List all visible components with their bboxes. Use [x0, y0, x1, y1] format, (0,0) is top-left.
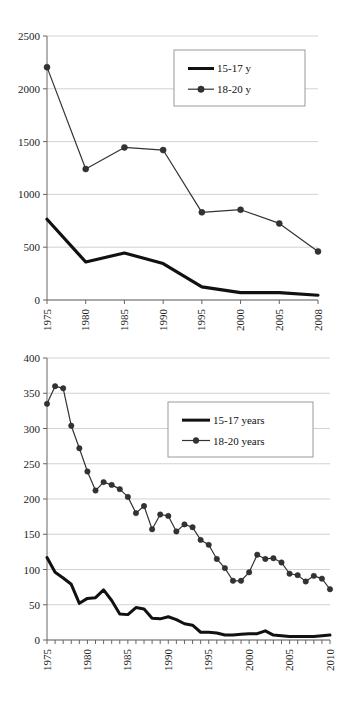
svg-text:1995: 1995 [202, 649, 214, 672]
chart-panel-top: 0500100015002000250019751980198519901995… [0, 0, 349, 350]
x-axis-tick-label: 1975 [41, 309, 53, 332]
x-axis-tick-label: 2005 [273, 309, 285, 332]
svg-text:1975: 1975 [41, 649, 53, 672]
series-marker [238, 578, 243, 583]
svg-text:2005: 2005 [273, 309, 285, 332]
x-axis-tick-label: 1990 [162, 649, 174, 672]
series-marker [174, 529, 179, 534]
series-marker [117, 486, 122, 491]
x-axis-tick-label: 1975 [41, 649, 53, 672]
x-axis-tick-label: 1980 [79, 309, 91, 332]
series-marker [101, 479, 106, 484]
line-chart-top: 0500100015002000250019751980198519901995… [0, 0, 349, 350]
x-axis-tick-label: 1990 [157, 309, 169, 332]
series-marker [44, 64, 50, 70]
x-axis-tick-label: 1985 [118, 309, 130, 332]
series-marker [93, 488, 98, 493]
series-marker [271, 556, 276, 561]
y-axis-tick-label: 1000 [18, 188, 41, 200]
svg-text:1980: 1980 [79, 309, 91, 332]
x-axis-tick-label: 1995 [195, 309, 207, 332]
y-axis-tick-label: 350 [24, 387, 41, 399]
series-marker [121, 144, 127, 150]
series-marker [85, 469, 90, 474]
series-marker [311, 573, 316, 578]
series-marker [327, 587, 332, 592]
y-axis-tick-label: 2000 [18, 83, 41, 95]
svg-text:2008: 2008 [312, 309, 324, 332]
svg-text:1975: 1975 [41, 309, 53, 332]
y-axis-tick-label: 1500 [18, 136, 41, 148]
series-marker [246, 570, 251, 575]
series-marker [69, 423, 74, 428]
svg-text:1995: 1995 [195, 309, 207, 332]
legend-label: 15-17 years [213, 414, 265, 426]
series-marker [222, 565, 227, 570]
series-marker [166, 513, 171, 518]
x-axis-tick-label: 2000 [243, 649, 255, 672]
line-chart-bottom: 0501001502002503003504001975198019851990… [0, 350, 349, 701]
legend-swatch-marker [193, 438, 199, 444]
svg-text:2000: 2000 [243, 649, 255, 672]
x-axis-tick-label: 1995 [202, 649, 214, 672]
series-marker [190, 525, 195, 530]
series-marker [109, 482, 114, 487]
svg-text:2010: 2010 [324, 649, 336, 672]
series-marker [199, 209, 205, 215]
svg-text:1985: 1985 [118, 309, 130, 332]
series-marker [206, 542, 211, 547]
legend-box [168, 402, 313, 457]
series-marker [230, 578, 235, 583]
series-marker [319, 576, 324, 581]
svg-text:1985: 1985 [121, 649, 133, 672]
series-marker [182, 522, 187, 527]
x-axis-tick-label: 2000 [234, 309, 246, 332]
series-marker [133, 510, 138, 515]
series-marker [141, 503, 146, 508]
series-marker [276, 220, 282, 226]
svg-text:2000: 2000 [234, 309, 246, 332]
x-axis-tick-label: 2008 [312, 309, 324, 332]
y-axis-tick-label: 200 [24, 493, 41, 505]
legend-label: 18-20 years [213, 435, 265, 447]
y-axis-tick-label: 100 [24, 564, 41, 576]
svg-text:1980: 1980 [81, 649, 93, 672]
series-marker [255, 552, 260, 557]
y-axis-tick-label: 400 [24, 352, 41, 364]
series-marker [77, 446, 82, 451]
svg-text:2005: 2005 [283, 649, 295, 672]
series-marker [315, 248, 321, 254]
series-marker [52, 384, 57, 389]
series-line [47, 219, 318, 295]
series-marker [83, 166, 89, 172]
series-marker [125, 494, 130, 499]
y-axis-tick-label: 150 [24, 528, 41, 540]
legend-label: 18-20 y [217, 83, 251, 95]
series-marker [238, 207, 244, 213]
series-marker [279, 560, 284, 565]
y-axis-tick-label: 50 [29, 599, 41, 611]
series-marker [214, 556, 219, 561]
x-axis-tick-label: 2010 [324, 649, 336, 672]
y-axis-tick-label: 300 [24, 423, 41, 435]
series-marker [263, 556, 268, 561]
y-axis-tick-label: 500 [24, 241, 41, 253]
chart-panel-bottom: 0501001502002503003504001975198019851990… [0, 350, 349, 701]
series-marker [149, 527, 154, 532]
series-marker [287, 571, 292, 576]
series-marker [44, 401, 49, 406]
x-axis-tick-label: 2005 [283, 649, 295, 672]
svg-text:1990: 1990 [162, 649, 174, 672]
legend-box [174, 50, 305, 106]
y-axis-tick-label: 2500 [18, 30, 41, 42]
y-axis-tick-label: 0 [35, 294, 41, 306]
svg-text:1990: 1990 [157, 309, 169, 332]
series-marker [60, 386, 65, 391]
x-axis-tick-label: 1980 [81, 649, 93, 672]
x-axis-tick-label: 1985 [121, 649, 133, 672]
y-axis-tick-label: 250 [24, 458, 41, 470]
series-marker [303, 579, 308, 584]
series-marker [295, 572, 300, 577]
series-marker [160, 147, 166, 153]
series-marker [198, 537, 203, 542]
